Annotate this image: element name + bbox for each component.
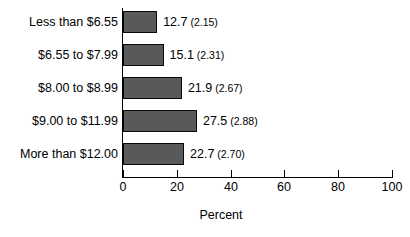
x-axis-title-text: Percent (199, 209, 242, 222)
bar (123, 143, 184, 165)
category-label: More than $12.00 (20, 148, 118, 161)
category-label: Less than $6.55 (29, 16, 118, 29)
bar-standard-error: (2.31) (194, 49, 224, 61)
category-label: $8.00 to $8.99 (38, 82, 118, 95)
x-axis-tick (231, 170, 232, 178)
bar-standard-error: (2.67) (212, 82, 242, 94)
x-axis-title: Percent (0, 209, 410, 222)
x-axis-tick (392, 170, 393, 178)
category-label: $9.00 to $11.99 (32, 115, 118, 128)
bar-row: $6.55 to $7.9915.1 (2.31) (0, 44, 410, 66)
bar-value: 27.5 (203, 114, 227, 128)
y-axis-line (122, 8, 123, 178)
bar (123, 11, 157, 33)
bar (123, 77, 182, 99)
x-axis-tick (177, 170, 178, 178)
bar-value: 21.9 (188, 81, 212, 95)
bar-value: 22.7 (190, 147, 214, 161)
x-axis-tick-label: 60 (277, 181, 291, 194)
x-axis-tick-label: 0 (120, 181, 127, 194)
bar-row: More than $12.0022.7 (2.70) (0, 143, 410, 165)
bar-standard-error: (2.70) (214, 148, 244, 160)
bar-row: $8.00 to $8.9921.9 (2.67) (0, 77, 410, 99)
bar-row: $9.00 to $11.9927.5 (2.88) (0, 110, 410, 132)
bar-standard-error: (2.88) (227, 115, 257, 127)
x-axis-tick-label: 40 (224, 181, 238, 194)
x-axis-tick (284, 170, 285, 178)
bar (123, 44, 164, 66)
bar (123, 110, 197, 132)
bar-standard-error: (2.15) (188, 16, 218, 28)
bar-value: 15.1 (170, 48, 194, 62)
bar-chart: Less than $6.5512.7 (2.15)$6.55 to $7.99… (0, 0, 410, 237)
bar-value-label: 12.7 (2.15) (163, 16, 218, 29)
bar-value-label: 15.1 (2.31) (170, 49, 225, 62)
x-axis-tick-label: 80 (331, 181, 345, 194)
category-label: $6.55 to $7.99 (38, 49, 118, 62)
bar-value-label: 21.9 (2.67) (188, 82, 243, 95)
bar-value-label: 22.7 (2.70) (190, 148, 245, 161)
bar-value-label: 27.5 (2.88) (203, 115, 258, 128)
bar-row: Less than $6.5512.7 (2.15) (0, 11, 410, 33)
plot-area: Less than $6.5512.7 (2.15)$6.55 to $7.99… (0, 0, 410, 237)
x-axis-tick-label: 20 (170, 181, 184, 194)
x-axis-tick-label: 100 (382, 181, 403, 194)
x-axis-tick (123, 170, 124, 178)
x-axis-tick (338, 170, 339, 178)
x-axis-line (123, 177, 392, 178)
bar-value: 12.7 (163, 15, 187, 29)
